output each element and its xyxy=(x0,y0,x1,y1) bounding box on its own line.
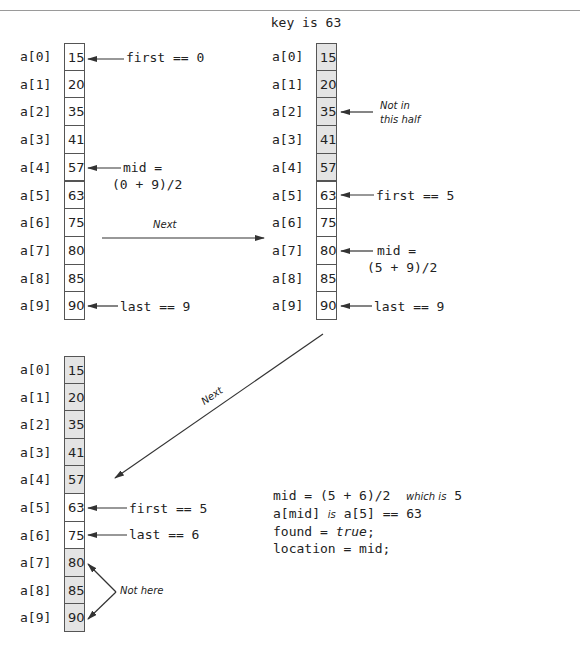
arrows-layer xyxy=(0,0,586,652)
not-here-arrow-up xyxy=(88,564,116,592)
not-here-arrow-down xyxy=(88,592,116,619)
next-arrow-diagonal xyxy=(115,334,323,478)
